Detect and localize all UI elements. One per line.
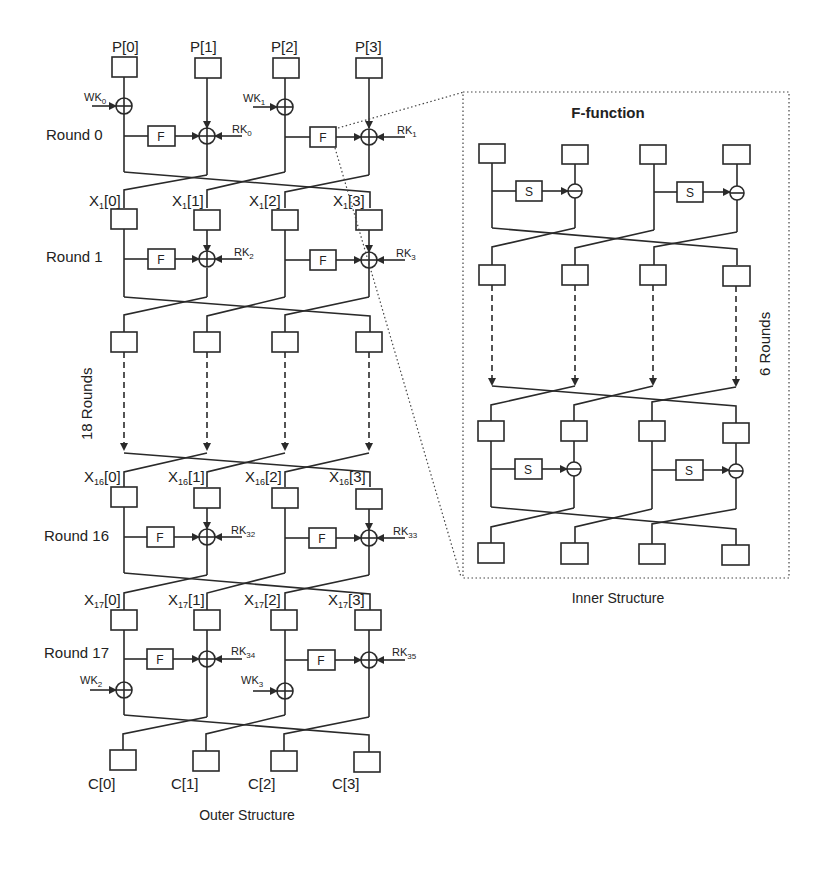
input-box-p0 <box>112 57 137 77</box>
zoom-connector-bottom <box>335 148 461 577</box>
state-box <box>111 487 137 507</box>
svg-text:X17[1]: X17[1] <box>168 591 205 610</box>
output-label-c1: C[1] <box>171 775 199 792</box>
f-function-frame <box>463 92 789 578</box>
state-box <box>356 210 382 230</box>
inner-box <box>640 265 666 285</box>
svg-text:X1[1]: X1[1] <box>172 192 204 211</box>
state-box <box>272 488 298 508</box>
wk0-label: WK0 <box>84 91 107 106</box>
inner-box <box>640 145 666 164</box>
input-box-p2 <box>273 58 299 78</box>
rk34-label: RK34 <box>231 645 256 660</box>
input-label-p0: P[0] <box>112 38 139 55</box>
state-box <box>356 489 382 509</box>
state-box <box>194 488 220 508</box>
outer-structure: P[0] P[1] P[2] P[3] WK0 WK1 Round 0 <box>44 38 418 823</box>
x17-labels: X17[0] X17[1] X17[2] X17[3] <box>84 591 365 610</box>
svg-text:F: F <box>317 654 324 668</box>
output-box-c2 <box>271 751 297 771</box>
feistel-diagram: P[0] P[1] P[2] P[3] WK0 WK1 Round 0 <box>0 0 828 871</box>
inner-box <box>562 265 588 285</box>
wk1-label: WK1 <box>243 92 266 107</box>
inner-box <box>479 144 505 163</box>
f-function-title: F-function <box>571 104 644 121</box>
output-box-c1 <box>193 751 219 771</box>
output-box-c3 <box>354 752 380 772</box>
inner-box <box>561 421 587 441</box>
state-box <box>272 210 298 230</box>
input-box-p1 <box>195 58 221 78</box>
state-box <box>194 610 220 630</box>
svg-text:F: F <box>156 653 163 667</box>
input-label-p3: P[3] <box>355 38 382 55</box>
outer-structure-caption: Outer Structure <box>199 807 295 823</box>
repeat-section: 18 Rounds <box>78 332 382 487</box>
svg-text:F: F <box>318 532 325 546</box>
outputs: C[0] C[1] C[2] C[3] Outer Structure <box>88 750 380 823</box>
inner-box <box>562 145 588 164</box>
round-label: Round 0 <box>46 126 103 143</box>
inner-box <box>722 545 749 565</box>
state-box <box>271 610 297 630</box>
round-label: Round 1 <box>46 248 103 265</box>
zoom-connector-top <box>338 92 464 128</box>
state-box <box>194 332 220 352</box>
input-label-p1: P[1] <box>190 38 217 55</box>
wk3-label: WK3 <box>241 674 264 689</box>
rk35-label: RK35 <box>392 646 417 661</box>
svg-text:X17[0]: X17[0] <box>84 591 121 610</box>
inner-box <box>478 421 504 441</box>
state-box <box>111 610 137 630</box>
wk2-label: WK2 <box>80 674 103 689</box>
state-box <box>355 610 381 630</box>
input-label-p2: P[2] <box>271 38 298 55</box>
inner-box <box>639 421 665 441</box>
round-17: Round 17 F RK34 F RK35 WK2 <box>44 610 417 752</box>
inner-box <box>723 423 749 443</box>
svg-text:X16[2]: X16[2] <box>245 468 282 487</box>
inner-box <box>639 544 665 564</box>
svg-text:F: F <box>156 531 163 545</box>
x1-labels: X1[0] X1[1] X1[2] X1[3] <box>89 192 365 211</box>
svg-text:F: F <box>319 131 326 145</box>
inner-structure-caption: Inner Structure <box>572 590 665 606</box>
round-0: WK0 WK1 Round 0 F RK0 F RK1 <box>46 57 417 208</box>
svg-text:X1[0]: X1[0] <box>89 192 121 211</box>
inner-box <box>723 266 750 286</box>
input-box-p3 <box>356 58 382 78</box>
eighteen-rounds-label: 18 Rounds <box>78 367 95 440</box>
svg-text:S: S <box>524 463 532 477</box>
round-1: Round 1 F RK2 F RK3 <box>46 209 416 332</box>
svg-text:X16[1]: X16[1] <box>168 468 205 487</box>
state-box <box>356 332 382 352</box>
svg-text:X16[0]: X16[0] <box>84 468 121 487</box>
round-label: Round 17 <box>44 644 109 661</box>
svg-text:F: F <box>157 130 164 144</box>
round-label: Round 16 <box>44 527 109 544</box>
six-rounds-label: 6 Rounds <box>756 312 773 376</box>
inner-structure: F-function S S 6 Rounds <box>463 92 789 606</box>
state-box <box>272 332 298 352</box>
svg-text:F: F <box>157 253 164 267</box>
inner-box <box>479 265 505 285</box>
output-label-c3: C[3] <box>332 775 360 792</box>
inner-box <box>723 145 750 164</box>
state-box <box>194 210 220 230</box>
output-label-c2: C[2] <box>248 775 276 792</box>
inner-box <box>478 543 504 563</box>
svg-text:S: S <box>525 185 533 199</box>
output-box-c0 <box>110 750 136 770</box>
svg-text:F: F <box>319 254 326 268</box>
svg-text:S: S <box>685 464 693 478</box>
svg-text:X1[2]: X1[2] <box>249 192 281 211</box>
svg-text:X17[3]: X17[3] <box>328 591 365 610</box>
svg-text:S: S <box>686 186 694 200</box>
inner-box <box>561 543 588 564</box>
output-label-c0: C[0] <box>88 775 116 792</box>
state-box <box>111 209 137 229</box>
state-box <box>111 332 137 352</box>
svg-text:X17[2]: X17[2] <box>244 591 281 610</box>
